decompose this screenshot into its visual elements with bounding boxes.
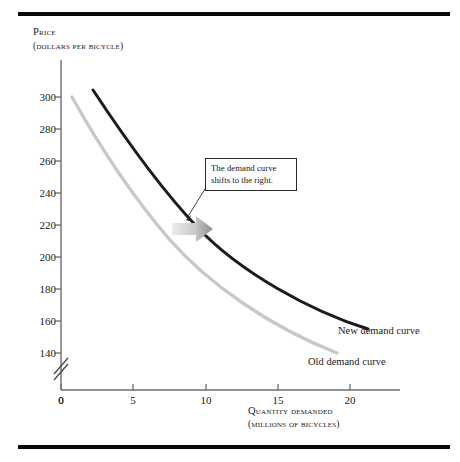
x-axis-tick-marks [61,384,350,390]
old-demand-curve-label: Old demand curve [308,356,386,367]
new-demand-curve-label: New demand curve [338,325,420,336]
callout-line-2: shifts to the right. [211,174,292,186]
callout-box: The demand curve shifts to the right. [205,158,297,191]
demand-curve-figure: Price (dollars per bicycle) Quantity dem… [0,0,460,462]
chart-canvas [0,0,460,462]
y-axis-tick-marks [54,97,61,353]
origin-label: 0 [53,394,69,406]
callout-line-1: The demand curve [211,162,292,174]
